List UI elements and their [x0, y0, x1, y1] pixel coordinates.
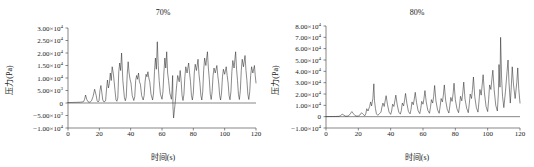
chart-title-70: 70%: [156, 8, 171, 17]
x-tick-labels-80: 020406080100120: [324, 128, 526, 138]
y-tick-label: 6.00×104: [295, 45, 321, 54]
y-tick-labels-70: 3.00×1042.50×1042.00×1041.50×1041.00×104…: [33, 24, 68, 133]
y-tick-label: 0: [60, 100, 64, 108]
y-tick-label: 3.00×104: [37, 24, 63, 33]
x-tick-labels-70: 020406080100120: [66, 128, 262, 138]
axis-spines-70: [68, 28, 256, 128]
x-tick-label: 60: [420, 130, 428, 138]
y-tick-label: −1.00×104: [291, 124, 321, 133]
y-tick-label: 5.00×104: [295, 56, 321, 65]
x-tick-label: 100: [219, 130, 230, 138]
chart-title-80: 80%: [410, 8, 425, 17]
x-tick-label: 100: [482, 130, 493, 138]
y-tick-label: 1.00×104: [37, 74, 63, 83]
y-tick-label: 8.00×104: [295, 22, 321, 31]
y-tick-label: 3.00×104: [295, 79, 321, 88]
x-axis-label-70: 时间(s): [151, 152, 176, 162]
data-series-line-80: [326, 37, 520, 116]
y-tick-label: 2.50×104: [37, 36, 63, 45]
y-tick-label: 4.00×104: [295, 67, 321, 76]
y-tick-label: 2.00×104: [295, 90, 321, 99]
x-tick-label: 60: [159, 130, 167, 138]
y-tick-label: 5.00×103: [37, 86, 63, 95]
x-tick-label: 20: [355, 130, 363, 138]
y-tick-label: −5.00×103: [33, 111, 63, 120]
x-tick-label: 20: [96, 130, 104, 138]
y-tick-label: 7.00×104: [295, 33, 321, 42]
figure-container: 70% 压力(Pa) 3.00×1042.50×1042.00×1041.50×…: [0, 0, 534, 167]
svg-text:压力(Pa): 压力(Pa): [4, 65, 14, 95]
y-axis-label-80: 压力(Pa): [270, 65, 280, 95]
x-axis-label-80: 时间(s): [405, 152, 430, 162]
axis-spines-80: [326, 26, 520, 128]
y-axis-label-70: 压力(Pa): [4, 65, 14, 95]
x-tick-label: 80: [452, 130, 460, 138]
y-tick-label: 0: [318, 113, 322, 121]
x-tick-label: 40: [387, 130, 395, 138]
x-tick-label: 0: [66, 130, 70, 138]
chart-svg-70: 70% 压力(Pa) 3.00×1042.50×1042.00×1041.50×…: [0, 0, 267, 167]
y-tick-label: 1.50×104: [37, 61, 63, 70]
y-tick-label: −1.00×104: [33, 124, 63, 133]
x-tick-label: 40: [127, 130, 135, 138]
x-tick-label: 120: [515, 130, 526, 138]
y-tick-label: 2.00×104: [37, 49, 63, 58]
y-tick-labels-80: 8.00×1047.00×1046.00×1045.00×1044.00×104…: [291, 22, 326, 133]
chart-panel-70: 70% 压力(Pa) 3.00×1042.50×1042.00×1041.50×…: [0, 0, 267, 167]
data-series-line-70: [68, 42, 256, 118]
chart-svg-80: 80% 压力(Pa) 8.00×1047.00×1046.00×1045.00×…: [262, 0, 534, 167]
x-tick-label: 0: [324, 130, 328, 138]
x-tick-label: 80: [190, 130, 198, 138]
chart-panel-80: 80% 压力(Pa) 8.00×1047.00×1046.00×1045.00×…: [262, 0, 534, 167]
y-tick-label: 1.00×104: [295, 101, 321, 110]
svg-text:压力(Pa): 压力(Pa): [270, 65, 280, 95]
x-tick-label: 120: [251, 130, 262, 138]
